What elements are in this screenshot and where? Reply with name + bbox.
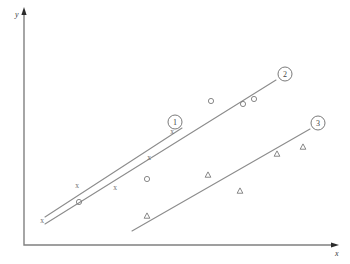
data-point-circle-marker <box>144 176 149 181</box>
data-point-x-marker: x <box>147 153 151 162</box>
x-axis-arrow-icon <box>331 242 339 247</box>
axis-lines <box>24 12 334 245</box>
callout-badge-2: 2 <box>278 67 292 81</box>
callout-badge-1: 1 <box>168 115 182 129</box>
data-point-triangle-marker <box>205 172 211 177</box>
data-point-x-marker: x <box>40 216 44 225</box>
callout-label-1: 1 <box>173 118 177 127</box>
data-point-triangle-marker <box>300 144 306 149</box>
data-point-circle-marker <box>240 101 245 106</box>
data-point-triangle-marker <box>144 213 150 218</box>
series-1-markers: xxxxx <box>40 127 174 225</box>
series-3-markers <box>144 144 306 218</box>
plot-canvas: yxxxxxx123 <box>0 0 350 264</box>
trend-line-1 <box>45 128 182 217</box>
axes-group: yx <box>14 7 339 258</box>
callout-label-2: 2 <box>283 70 287 79</box>
data-point-x-marker: x <box>113 183 117 192</box>
data-point-triangle-marker <box>237 188 243 193</box>
callout-label-3: 3 <box>316 119 320 128</box>
scatter-plot-figure: yxxxxxx123 <box>0 0 350 264</box>
y-axis-label: y <box>14 10 19 19</box>
trend-line-3 <box>132 129 310 231</box>
data-point-circle-marker <box>208 98 213 103</box>
series-2-markers <box>76 96 256 204</box>
x-axis-label: x <box>334 249 339 258</box>
data-point-circle-marker <box>251 96 256 101</box>
data-point-x-marker: x <box>75 181 79 190</box>
data-point-triangle-marker <box>274 151 280 156</box>
y-axis-arrow-icon <box>21 7 26 15</box>
callout-badge-3: 3 <box>311 116 325 130</box>
